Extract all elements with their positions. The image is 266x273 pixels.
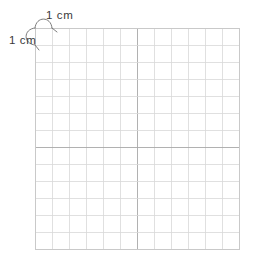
centimetre-grid-figure: 1 cm 1 cm	[0, 0, 266, 273]
grid-lines-group	[35, 28, 239, 249]
horizontal-cm-label: 1 cm	[46, 10, 73, 22]
horizontal-brace-tick	[52, 28, 57, 32]
grid-canvas	[0, 0, 266, 273]
vertical-cm-label: 1 cm	[9, 35, 36, 47]
